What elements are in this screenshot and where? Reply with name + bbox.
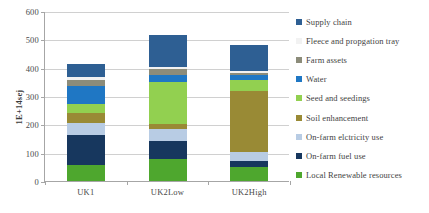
x-axis-category-label: UK1 — [41, 187, 131, 197]
x-axis-category-label: UK2Low — [123, 187, 213, 197]
bar-segment[interactable] — [230, 167, 268, 181]
x-axis-category-label: UK2High — [204, 187, 294, 197]
legend-item[interactable]: Fleece and propgation tray — [296, 31, 429, 50]
y-axis-tick-label: 300 — [26, 92, 39, 102]
bar-segment[interactable] — [230, 152, 268, 161]
legend-swatch-icon — [296, 153, 302, 159]
legend-swatch-icon — [296, 57, 302, 63]
legend-item[interactable]: Water — [296, 70, 429, 89]
legend-label: Soil enhancement — [306, 113, 368, 123]
legend-item[interactable]: Supply chain — [296, 12, 429, 31]
legend-swatch-icon — [296, 172, 302, 178]
bar-UK2High[interactable] — [230, 45, 268, 181]
legend-item[interactable]: On-farm fuel use — [296, 146, 429, 165]
legend-swatch-icon — [296, 115, 302, 121]
bar-segment[interactable] — [149, 141, 187, 159]
legend-item[interactable]: Soil enhancement — [296, 108, 429, 127]
legend-swatch-icon — [296, 134, 302, 140]
legend-label: On-farm fuel use — [306, 151, 366, 161]
legend-label: Supply chain — [306, 17, 352, 27]
legend-label: Local Renewable resources — [306, 170, 402, 180]
y-axis-tick-label: 400 — [26, 64, 39, 74]
legend-swatch-icon — [296, 19, 302, 25]
legend-item[interactable]: Farm assets — [296, 50, 429, 69]
bar-segment[interactable] — [67, 135, 105, 165]
legend-item[interactable]: On-farm elctricity use — [296, 127, 429, 146]
bar-segment[interactable] — [149, 82, 187, 123]
bar-segment[interactable] — [149, 159, 187, 181]
bar-segment[interactable] — [67, 86, 105, 103]
bar-segment[interactable] — [230, 80, 268, 91]
y-axis-tick-label: 200 — [26, 120, 39, 130]
legend-item[interactable]: Seed and seedings — [296, 89, 429, 108]
bar-segment[interactable] — [230, 91, 268, 153]
bar-segment[interactable] — [67, 165, 105, 181]
bar-UK2Low[interactable] — [149, 35, 187, 181]
bar-segment[interactable] — [67, 104, 105, 113]
legend-swatch-icon — [296, 38, 302, 44]
bar-segment[interactable] — [67, 113, 105, 123]
y-axis-tick-label: 600 — [26, 7, 39, 17]
y-axis-tick-label: 100 — [26, 149, 39, 159]
bars-layer — [45, 12, 289, 181]
x-axis-tick — [127, 181, 128, 185]
stacked-bar-chart: 1E+14sej 0100200300400500600 UK1UK2LowUK… — [0, 0, 429, 213]
bar-segment[interactable] — [67, 123, 105, 135]
bar-UK1[interactable] — [67, 64, 105, 181]
x-axis-tick — [208, 181, 209, 185]
chart-legend: Supply chainFleece and propgation trayFa… — [296, 12, 429, 185]
legend-label: Fleece and propgation tray — [306, 36, 399, 46]
y-axis-title: 1E+14sej — [14, 89, 24, 124]
legend-label: Farm assets — [306, 55, 347, 65]
bar-segment[interactable] — [149, 75, 187, 82]
y-axis-tick-label: 0 — [35, 177, 39, 187]
x-axis-tick — [45, 181, 46, 185]
legend-swatch-icon — [296, 76, 302, 82]
legend-label: On-farm elctricity use — [306, 132, 383, 142]
bar-segment[interactable] — [149, 35, 187, 67]
legend-item[interactable]: Local Renewable resources — [296, 166, 429, 185]
x-axis-tick — [290, 181, 291, 185]
legend-label: Water — [306, 74, 327, 84]
y-axis-tick-label: 500 — [26, 35, 39, 45]
bar-segment[interactable] — [67, 64, 105, 77]
bar-segment[interactable] — [230, 45, 268, 71]
legend-label: Seed and seedings — [306, 93, 370, 103]
bar-segment[interactable] — [149, 129, 187, 141]
plot-area: 0100200300400500600 UK1UK2LowUK2High — [44, 12, 289, 182]
legend-swatch-icon — [296, 95, 302, 101]
